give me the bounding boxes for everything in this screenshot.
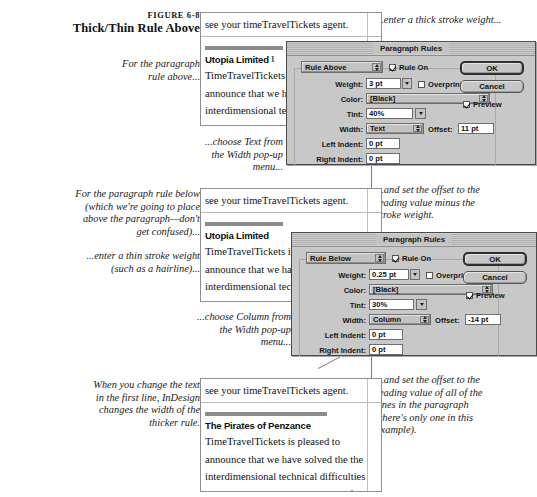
dialog1-width-select[interactable]: Text (366, 123, 424, 134)
dialog1-right-indent-field[interactable]: 0 pt (366, 153, 400, 164)
frame3-paragraph-divider (201, 402, 381, 403)
dialog2-rule-on-label: Rule On (402, 254, 431, 263)
frame1-first-line: see your timeTravelTickets agent. (201, 13, 381, 33)
dialog1-title: Paragraph Rules (373, 43, 449, 54)
dialog-paragraph-rules-below[interactable]: Paragraph Rules Rule Below Rule On Weigh… (291, 232, 537, 356)
dialog2-width-select[interactable]: Column (369, 314, 431, 325)
dialog2-right-indent-value: 0 pt (372, 345, 386, 354)
frame1-heading-text: Utopia Limited (205, 54, 269, 65)
dialog2-rule-on-checkbox[interactable]: Rule On (392, 254, 431, 263)
chevron-updown-icon (420, 316, 429, 323)
dialog1-ok-label: OK (486, 64, 498, 73)
figure-label: FIGURE 6-8 (60, 10, 200, 20)
dialog1-color-value: [Black] (370, 94, 395, 103)
annotation-width-column: ...choose Column from the Width pop-up m… (160, 311, 291, 349)
dialog2-preview-checkbox[interactable]: Preview (466, 291, 505, 300)
checkbox-icon (389, 64, 396, 71)
dialog2-tint-label: Tint: (312, 301, 366, 311)
dialog1-weight-label: Weight: (309, 80, 363, 90)
figure-page: FIGURE 6-8 Thick/Thin Rule Above For the… (0, 0, 537, 497)
dialog2-cancel-label: Cancel (482, 273, 508, 282)
checkbox-icon (463, 101, 470, 108)
dialog2-offset-field[interactable]: -14 pt (465, 314, 501, 325)
checkbox-icon (392, 255, 399, 262)
dialog1-left-indent-value: 0 pt (369, 139, 383, 148)
dialog2-title-bar[interactable]: Paragraph Rules (292, 233, 536, 247)
dialog2-ok-button[interactable]: OK (463, 252, 527, 266)
column-guide (367, 379, 368, 491)
checkbox-icon (466, 292, 473, 299)
dialog1-weight-stepper[interactable] (402, 78, 412, 89)
dialog1-offset-label: Offset: (428, 125, 458, 135)
frame3-body-line-1: TimeTravelTickets is pleased to (201, 433, 381, 450)
dialog2-cancel-button[interactable]: Cancel (463, 271, 527, 284)
dialog2-left-indent-value: 0 pt (372, 330, 386, 339)
dialog-paragraph-rules-above[interactable]: Paragraph Rules Rule Above Rule On Weigh… (286, 41, 536, 165)
dialog2-weight-value: 0.25 pt (372, 270, 396, 279)
annotation-rule-above: For the paragraph rule above... (40, 58, 200, 83)
annotation-offset-above: ...and set the offset to the leading val… (376, 184, 536, 222)
dialog1-tint-field[interactable]: 40% (366, 108, 413, 119)
frame3-heading: The Pirates of Penzance (201, 419, 381, 433)
frame2-first-line: see your timeTravelTickets agent. (201, 189, 381, 209)
dialog1-width-label: Width: (309, 125, 363, 135)
dialog2-tint-field[interactable]: 30% (369, 299, 414, 310)
chevron-down-icon (413, 273, 417, 276)
chevron-updown-icon (413, 125, 422, 132)
dialog1-rule-select[interactable]: Rule Above (301, 61, 383, 73)
frame3-first-line: see your timeTravelTickets agent. (201, 379, 381, 399)
frame1-paragraph-divider (201, 36, 381, 37)
dialog2-offset-value: -14 pt (468, 315, 488, 324)
dialog1-tint-label: Tint: (309, 110, 363, 120)
frame3-thick-rule (205, 412, 327, 416)
frame2-paragraph-divider (201, 212, 381, 213)
dialog2-weight-stepper[interactable] (410, 269, 420, 280)
dialog1-title-bar[interactable]: Paragraph Rules (287, 42, 535, 56)
dialog2-tint-stepper[interactable] (416, 299, 427, 310)
dialog2-tint-value: 30% (372, 300, 387, 309)
chevron-down-icon (420, 303, 424, 306)
dialog2-width-value: Column (373, 315, 401, 324)
dialog1-rule-on-checkbox[interactable]: Rule On (389, 63, 428, 72)
frame3-body-line-3: interdimensional technical difficulties (201, 468, 381, 485)
dialog1-tint-value: 40% (369, 109, 384, 118)
dialog2-right-indent-label: Right Indent: (292, 346, 366, 356)
dialog1-weight-field[interactable]: 3 pt (366, 78, 401, 89)
dialog1-cancel-button[interactable]: Cancel (460, 80, 524, 93)
dialog1-left-indent-field[interactable]: 0 pt (366, 138, 400, 149)
dialog1-rule-on-label: Rule On (399, 63, 428, 72)
chevron-updown-icon (372, 63, 381, 71)
annotation-change-text: When you change the text in the first li… (20, 379, 200, 429)
dialog1-rule-select-value: Rule Above (305, 63, 347, 72)
annotation-rule-below: For the paragraph rule below (which we'r… (20, 188, 200, 238)
dialog2-width-label: Width: (312, 316, 366, 326)
dialog2-preview-label: Preview (476, 291, 505, 300)
dialog1-tint-stepper[interactable] (415, 108, 426, 119)
frame2-thick-rule (205, 222, 283, 226)
frame3-body-line-2: announce that we have solved the the (201, 451, 381, 468)
dialog2-left-indent-field[interactable]: 0 pt (369, 329, 403, 340)
annotation-thin-stroke: ...enter a thin stroke weight (such as a… (20, 250, 200, 275)
annotation-thick-stroke: ...enter a thick stroke weight... (376, 14, 536, 27)
dialog1-right-indent-label: Right Indent: (289, 155, 363, 165)
dialog2-weight-field[interactable]: 0.25 pt (369, 269, 409, 280)
chevron-down-icon (405, 82, 409, 85)
dialog2-rule-select[interactable]: Rule Below (306, 252, 386, 264)
dialog1-ok-button[interactable]: OK (460, 61, 524, 75)
dialog1-color-label: Color: (309, 95, 363, 105)
chevron-updown-icon (375, 254, 384, 262)
dialog1-right-indent-value: 0 pt (369, 154, 383, 163)
annotation-offset-below: ...and set the offset to the leading val… (376, 374, 536, 437)
dialog1-cancel-label: Cancel (479, 82, 505, 91)
text-frame-result[interactable]: see your timeTravelTickets agent. The Pi… (200, 378, 382, 492)
dialog1-offset-value: 11 pt (461, 124, 478, 133)
dialog1-offset-field[interactable]: 11 pt (458, 123, 494, 134)
dialog2-offset-label: Offset: (435, 316, 465, 326)
dialog2-title: Paragraph Rules (376, 234, 452, 245)
dialog2-right-indent-field[interactable]: 0 pt (369, 344, 403, 355)
dialog1-preview-checkbox[interactable]: Preview (463, 100, 502, 109)
dialog2-left-indent-label: Left Indent: (296, 331, 366, 341)
figure-title: Thick/Thin Rule Above (25, 21, 200, 36)
frame3-body-line-4: surrounding the opening night perfor- (201, 486, 381, 492)
checkbox-icon (418, 81, 425, 88)
